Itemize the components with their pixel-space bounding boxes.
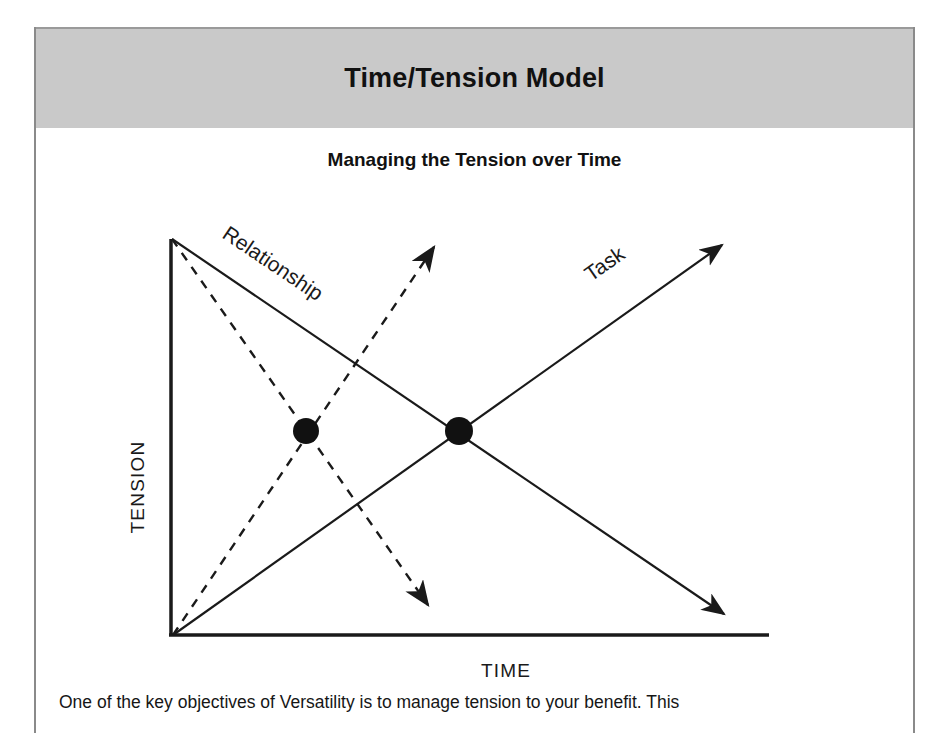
time-tension-diagram: Relationship Task TENSION TIME <box>36 177 913 677</box>
x-axis-label: TIME <box>481 660 531 677</box>
task-label: Task <box>580 241 629 285</box>
dashed-crossing-point <box>293 418 319 444</box>
solid-crossing-point <box>445 417 473 445</box>
title-banner: Time/Tension Model <box>36 27 913 128</box>
y-axis-label: TENSION <box>127 441 148 534</box>
relationship-label: Relationship <box>219 221 328 305</box>
slide-page: Time/Tension Model Managing the Tension … <box>0 0 937 733</box>
time-tension-chart: Relationship Task TENSION TIME <box>36 177 913 677</box>
task-line <box>173 245 722 635</box>
page-title: Time/Tension Model <box>344 63 605 94</box>
slide-frame: Time/Tension Model Managing the Tension … <box>34 27 915 733</box>
slide-subtitle: Managing the Tension over Time <box>36 149 913 171</box>
body-paragraph: One of the key objectives of Versatility… <box>59 690 869 715</box>
